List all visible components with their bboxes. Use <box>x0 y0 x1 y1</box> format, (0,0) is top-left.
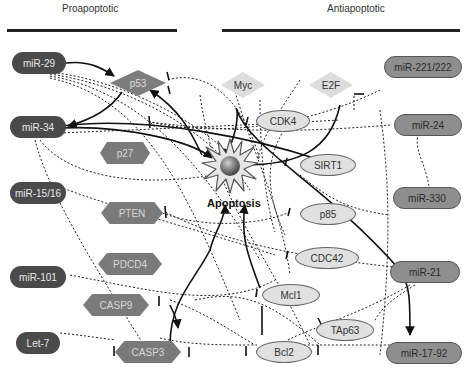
target-cdc42[interactable]: CDC42 <box>295 247 359 269</box>
mirna-mir-101[interactable]: miR-101 <box>10 266 66 288</box>
mirna-mir-15-16[interactable]: miR-15/16 <box>10 182 66 204</box>
mirna-mir-29[interactable]: miR-29 <box>12 52 66 74</box>
target-cdk4[interactable]: CDK4 <box>256 110 310 132</box>
target-casp3[interactable]: CASP3 <box>115 341 181 363</box>
target-pdcd4[interactable]: PDCD4 <box>98 253 162 275</box>
target-mcl1[interactable]: Mcl1 <box>262 284 320 306</box>
mirna-mir-330[interactable]: miR-330 <box>393 187 461 209</box>
mirna-mir-21[interactable]: miR-21 <box>390 261 460 283</box>
target-bcl2[interactable]: Bcl2 <box>256 341 312 363</box>
target-sirt1[interactable]: SIRT1 <box>300 154 356 176</box>
target-pten[interactable]: PTEN <box>101 202 163 224</box>
mirna-let-7[interactable]: Let-7 <box>16 332 60 354</box>
mirna-mir-17-92[interactable]: miR-17-92 <box>386 342 462 364</box>
target-casp9[interactable]: CASP9 <box>83 294 149 316</box>
target-p85[interactable]: p85 <box>300 203 356 225</box>
apoptosis-label: Apoptosis <box>207 197 261 209</box>
mirna-mir-221-222[interactable]: miR-221/222 <box>384 56 462 78</box>
mirna-mir-34[interactable]: miR-34 <box>10 116 66 138</box>
apoptosis-cell-icon <box>198 135 262 197</box>
mirna-mir-24[interactable]: miR-24 <box>394 114 462 136</box>
target-tap63[interactable]: TAp63 <box>316 319 374 341</box>
target-p27[interactable]: p27 <box>100 142 150 164</box>
